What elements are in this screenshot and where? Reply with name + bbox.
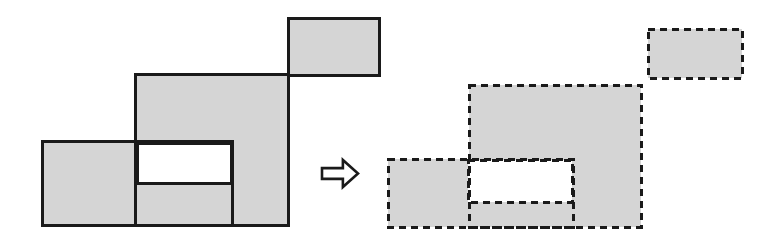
transform-arrow [322,160,358,187]
figure-canvas: Rectangle union / merge illustration Thr… [0,0,783,246]
left-panel [42,18,379,225]
top-right-rectangle[interactable] [288,18,379,75]
merged-top-right-rectangle[interactable] [648,29,742,78]
diagram-svg [0,0,783,246]
right-panel [388,29,742,227]
white-hole-rectangle[interactable] [137,143,231,183]
merged-white-hole-fill [468,160,572,202]
hollow-right-arrow-icon [322,160,358,187]
